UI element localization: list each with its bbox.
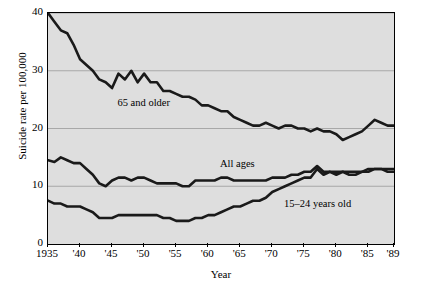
x-tick-mark — [367, 243, 368, 247]
x-tick-label: '75 — [286, 247, 320, 259]
x-tick-label: '50 — [126, 247, 160, 259]
x-tick-label: '60 — [190, 247, 224, 259]
series-label: All ages — [220, 158, 255, 169]
x-tick-mark — [239, 243, 240, 247]
plot-area — [47, 12, 395, 245]
y-tick-label: 20 — [13, 121, 43, 133]
x-tick-mark — [175, 243, 176, 247]
x-tick-label: '89 — [376, 247, 410, 259]
y-tick-label: 10 — [13, 178, 43, 190]
x-tick-mark — [303, 243, 304, 247]
y-tick-label: 30 — [13, 63, 43, 75]
x-tick-mark — [335, 243, 336, 247]
x-axis-label: Year — [47, 268, 395, 280]
chart-figure: Suicide rate per 100,000 010203040 1935'… — [0, 0, 428, 288]
x-tick-mark — [79, 243, 80, 247]
series-line — [48, 13, 394, 140]
x-tick-label: '70 — [254, 247, 288, 259]
x-tick-mark — [47, 243, 48, 247]
x-tick-label: '55 — [158, 247, 192, 259]
x-tick-label: '65 — [222, 247, 256, 259]
x-tick-label: '80 — [318, 247, 352, 259]
x-tick-label: '40 — [62, 247, 96, 259]
x-tick-label: 1935 — [30, 247, 64, 259]
x-tick-mark — [271, 243, 272, 247]
x-tick-mark — [143, 243, 144, 247]
series-label: 65 and older — [117, 97, 170, 108]
x-tick-mark — [393, 243, 394, 247]
x-tick-mark — [207, 243, 208, 247]
x-tick-label: '45 — [94, 247, 128, 259]
x-tick-mark — [111, 243, 112, 247]
series-label: 15–24 years old — [284, 198, 351, 209]
y-tick-label: 40 — [13, 5, 43, 17]
